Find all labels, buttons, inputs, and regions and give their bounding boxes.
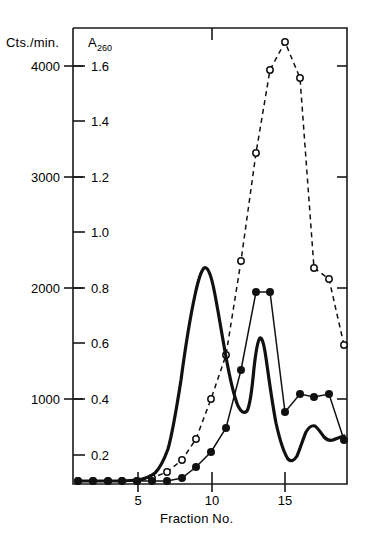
a260-axis-ticks bbox=[73, 66, 85, 455]
svg-text:1.0: 1.0 bbox=[91, 225, 109, 240]
a260-filled-markers bbox=[74, 288, 348, 485]
a260-open-markers bbox=[75, 39, 347, 484]
x-axis-title: Fraction No. bbox=[160, 511, 233, 526]
svg-text:10: 10 bbox=[205, 493, 219, 508]
svg-text:1.4: 1.4 bbox=[91, 114, 109, 129]
left-axis-title: Cts./min. bbox=[6, 35, 59, 50]
chart-figure: Cts./min. A 260 Fraction No. 4000 3000 2… bbox=[0, 0, 367, 534]
right-axis-title: A 260 bbox=[88, 35, 112, 53]
svg-text:0.8: 0.8 bbox=[91, 281, 109, 296]
svg-text:0.2: 0.2 bbox=[91, 448, 109, 463]
left-tick-labels: 4000 3000 2000 1000 bbox=[31, 59, 60, 407]
svg-text:3000: 3000 bbox=[31, 170, 60, 185]
svg-text:2000: 2000 bbox=[31, 281, 60, 296]
svg-text:1.2: 1.2 bbox=[91, 170, 109, 185]
a260-open-dashed-line bbox=[78, 42, 344, 481]
svg-text:0.4: 0.4 bbox=[91, 392, 109, 407]
a260-tick-labels: 1.6 1.4 1.2 1.0 0.8 0.6 0.4 0.2 bbox=[91, 59, 109, 463]
svg-text:15: 15 bbox=[278, 493, 292, 508]
right-border-ticks bbox=[337, 66, 347, 399]
x-tick-labels: 5 10 15 bbox=[134, 493, 292, 508]
svg-text:0.6: 0.6 bbox=[91, 336, 109, 351]
series-a260-open-circle-dashed bbox=[75, 39, 347, 484]
svg-text:5: 5 bbox=[134, 493, 141, 508]
svg-text:1000: 1000 bbox=[31, 392, 60, 407]
svg-text:4000: 4000 bbox=[31, 59, 60, 74]
svg-text:1.6: 1.6 bbox=[91, 59, 109, 74]
plot-frame bbox=[73, 28, 347, 484]
svg-text:260: 260 bbox=[97, 43, 112, 53]
chromatogram-plot: Cts./min. A 260 Fraction No. 4000 3000 2… bbox=[0, 0, 367, 534]
series-a260-filled-circle-solid bbox=[74, 288, 348, 485]
svg-text:A: A bbox=[88, 35, 97, 50]
